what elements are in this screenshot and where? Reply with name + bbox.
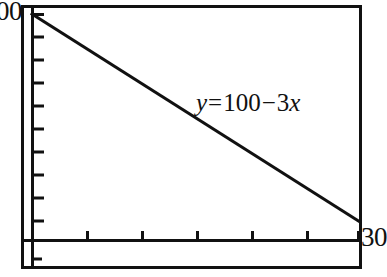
equation-coefficient: 3 — [277, 89, 290, 116]
x-axis-max-label: 30 — [361, 224, 387, 251]
y-axis-max-label: 100 — [0, 0, 22, 25]
equation-intercept: 100 — [223, 89, 261, 116]
plot-frame — [23, 7, 361, 268]
equation-annotation: y=100−3x — [196, 90, 300, 115]
equation-variable-y: y — [196, 89, 207, 116]
equation-minus-sign: − — [261, 89, 277, 116]
equation-equals-sign: = — [207, 89, 223, 116]
equation-variable-x: x — [289, 89, 300, 116]
